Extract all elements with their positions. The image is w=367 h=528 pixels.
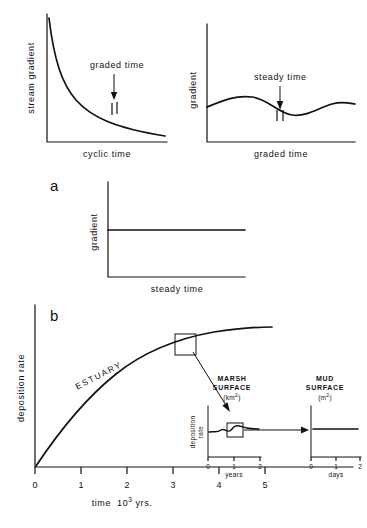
mud-unit-label: (m2) <box>318 392 332 402</box>
marsh-deposition-curve <box>209 426 259 432</box>
figure-svg: graded time stream gradient cyclic time … <box>0 0 367 528</box>
steady-y-axis-label: gradient <box>89 213 99 250</box>
marsh-xtick-0: 0 <box>206 463 210 470</box>
graded-axes <box>207 24 355 142</box>
marsh-magnification-box <box>227 423 243 437</box>
mud-x-ticks <box>311 457 360 461</box>
deposition-xtick-2: 2 <box>124 480 129 490</box>
graded-annotation-label: steady time <box>254 72 307 82</box>
mud-xtick-0: 0 <box>309 463 313 470</box>
marsh-unit-open: (km <box>223 394 235 402</box>
deposition-xtick-0: 0 <box>32 480 37 490</box>
cyclic-annotation-label: graded time <box>90 60 144 70</box>
marsh-leader-arrow-head <box>222 402 230 412</box>
mud-leader-arrow-head <box>301 426 309 433</box>
graded-x-axis-label: graded time <box>254 149 308 159</box>
mud-axes <box>311 406 361 457</box>
marsh-x-axis-label: years <box>225 471 243 479</box>
graded-y-axis-label: gradient <box>188 71 198 108</box>
mud-title-line1: MUD <box>316 375 334 382</box>
deposition-xlabel-unit: yrs. <box>135 498 152 508</box>
panel-letter-a: a <box>50 177 59 194</box>
deposition-xlabel-main: time <box>92 498 111 508</box>
deposition-x-axis-label: time103yrs. <box>92 496 153 508</box>
deposition-y-axis-label: deposition rate <box>16 354 26 422</box>
mud-x-axis-label: days <box>329 471 344 479</box>
deposition-xtick-5: 5 <box>262 480 267 490</box>
estuary-curve-label: ESTUARY <box>74 359 124 391</box>
deposition-xlabel-base: 10 <box>117 498 128 508</box>
marsh-x-ticks <box>208 457 260 461</box>
marsh-xtick-2: 2 <box>258 463 262 470</box>
mud-xtick-1: 1 <box>334 463 338 470</box>
panel-deposition-rate: b 0 1 2 3 4 5 ESTUARY deposition rate <box>16 305 353 508</box>
steady-x-axis-label: steady time <box>151 284 204 294</box>
deposition-xtick-1: 1 <box>78 480 83 490</box>
cyclic-gradient-curve <box>49 18 165 136</box>
cyclic-y-axis-label: stream gradient <box>26 42 36 114</box>
panel-cyclic-time: graded time stream gradient cyclic time <box>26 14 167 159</box>
mud-unit-open: (m <box>318 394 326 402</box>
marsh-unit-close: ) <box>238 394 240 402</box>
cyclic-annotation-arrow-head <box>111 92 117 100</box>
marsh-xtick-1: 1 <box>232 463 236 470</box>
marsh-y-axis-label-line1: deposition <box>189 416 197 449</box>
mud-title-line2: SURFACE <box>306 384 344 391</box>
panel-letter-b: b <box>50 307 58 324</box>
cyclic-axes <box>47 14 167 142</box>
marsh-y-axis-label-line2: rate <box>197 426 204 438</box>
inset-marsh-surface: MARSH SURFACE (km2) 0 1 2 years depositi… <box>189 375 309 479</box>
marsh-title-line1: MARSH <box>217 375 246 382</box>
mud-unit-close: ) <box>329 394 331 402</box>
panel-steady-time: a gradient steady time <box>50 177 245 294</box>
marsh-title-line2: SURFACE <box>213 384 251 391</box>
inset-mud-surface: MUD SURFACE (m2) 0 1 2 days <box>306 375 362 479</box>
deposition-xtick-3: 3 <box>170 480 175 490</box>
mud-xtick-2: 2 <box>358 463 362 470</box>
deposition-xlabel-exp: 3 <box>128 496 132 503</box>
marsh-unit-label: (km2) <box>223 392 240 402</box>
figure-container: graded time stream gradient cyclic time … <box>0 0 367 528</box>
deposition-xtick-4: 4 <box>216 480 221 490</box>
panel-graded-time: steady time gradient graded time <box>188 24 355 159</box>
cyclic-x-axis-label: cyclic time <box>83 149 131 159</box>
